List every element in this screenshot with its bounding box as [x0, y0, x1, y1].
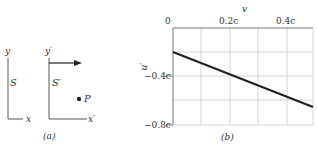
y-axis-title: u′ — [140, 63, 149, 71]
frame-s-axes — [8, 58, 23, 119]
point-p-label: P — [84, 94, 91, 104]
x-axis-title: v — [242, 5, 247, 14]
axis-label-y: y — [5, 47, 10, 56]
caption-b: (b) — [221, 133, 234, 142]
chart-grid — [173, 28, 313, 125]
point-p-marker — [77, 97, 81, 101]
frame-s-prime-label: S′ — [52, 78, 61, 88]
data-line — [173, 52, 313, 107]
x-tick-2: 0.4c — [276, 17, 295, 26]
y-tick-2: −0.8c — [144, 121, 171, 130]
caption-a: (a) — [43, 132, 55, 141]
frame-s-prime-axes — [49, 58, 87, 119]
y-tick-1: −0.4c — [144, 72, 171, 81]
velocity-arrow — [49, 60, 82, 66]
chart-axes — [166, 28, 313, 125]
axis-label-y-prime: y′ — [45, 47, 52, 56]
axis-label-x-prime: x′ — [88, 115, 95, 124]
x-tick-1: 0.2c — [219, 17, 238, 26]
frame-s-label: S — [10, 78, 17, 88]
axis-label-x: x — [26, 115, 31, 124]
x-tick-0: 0 — [165, 17, 171, 26]
